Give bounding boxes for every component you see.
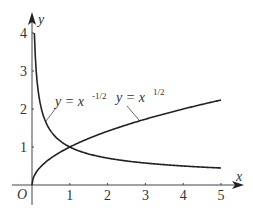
x-tick-label: 4 bbox=[180, 188, 187, 203]
svg-text:-1/2: -1/2 bbox=[92, 91, 107, 101]
x-axis-label: x bbox=[235, 169, 243, 184]
x-tick-label: 2 bbox=[104, 188, 111, 203]
x-axis bbox=[12, 181, 244, 189]
y-tick-label: 1 bbox=[20, 140, 27, 155]
label-sqrt: y = x 1/2 bbox=[114, 87, 165, 105]
leader-line-inverse-sqrt bbox=[46, 108, 56, 121]
y-tick-label: 4 bbox=[20, 26, 27, 41]
curve-sqrt bbox=[32, 100, 221, 185]
svg-text:1/2: 1/2 bbox=[153, 87, 165, 97]
origin-label: O bbox=[17, 187, 27, 202]
y-tick-label: 3 bbox=[20, 64, 27, 79]
y-axis-label: y bbox=[36, 12, 45, 27]
x-tick-label: 3 bbox=[142, 188, 149, 203]
x-tick-label: 5 bbox=[218, 188, 225, 203]
leader-line-sqrt bbox=[127, 106, 139, 120]
svg-text:y = x: y = x bbox=[53, 94, 85, 109]
label-inverse-sqrt: y = x -1/2 bbox=[53, 91, 107, 109]
svg-text:y = x: y = x bbox=[114, 90, 146, 105]
x-tick-label: 1 bbox=[66, 188, 73, 203]
chart: 12345 1234 x y O y = x -1/2 y = x 1/2 bbox=[0, 0, 253, 213]
x-ticks: 12345 bbox=[66, 183, 224, 203]
y-tick-label: 2 bbox=[20, 102, 27, 117]
